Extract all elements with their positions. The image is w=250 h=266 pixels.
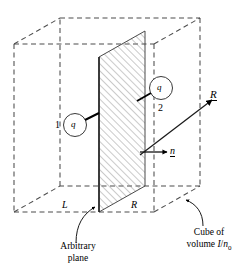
particle-1-symbol: q bbox=[71, 119, 76, 129]
particle-2-number-label: 2 bbox=[158, 102, 163, 114]
particle-1-leader bbox=[85, 113, 99, 120]
particle-1-number-label: 1 bbox=[55, 119, 60, 131]
arbitrary-plane-caption-line2: plane bbox=[36, 253, 120, 265]
arbitrary-plane-caption: Arbitrary plane bbox=[36, 241, 120, 265]
cube-edge-connect-tl bbox=[14, 18, 60, 44]
cube-volume-caption-line2: volume I/n0 bbox=[168, 239, 250, 253]
position-vector-R-label: R bbox=[210, 88, 217, 101]
position-vector-R-arrow bbox=[140, 100, 212, 155]
cube-volume-caption-line1: Cube of bbox=[168, 227, 250, 239]
particle-1-group bbox=[64, 113, 100, 137]
cube-volume-caption-prefix: volume bbox=[187, 239, 218, 249]
normal-vector-label: n bbox=[170, 145, 175, 157]
cube-volume-caption: Cube of volume I/n0 bbox=[168, 227, 250, 253]
normal-vector-label-text: n bbox=[170, 146, 175, 157]
cube-caption-leader bbox=[186, 200, 203, 226]
arbitrary-plane-caption-line1: Arbitrary bbox=[36, 241, 120, 253]
particle-2-symbol: q bbox=[157, 82, 162, 92]
cube-edge-connect-br bbox=[154, 186, 200, 212]
cube-edge-connect-tr bbox=[154, 18, 200, 44]
cube-volume-subscript: 0 bbox=[228, 244, 232, 252]
arbitrary-plane bbox=[99, 31, 145, 212]
edge-label-R: R bbox=[131, 199, 137, 211]
edge-label-L: L bbox=[62, 199, 68, 211]
cube-edge-connect-bl bbox=[14, 186, 60, 212]
figure-root: 1 q 2 q n R L R Arbitrary plane Cube of … bbox=[0, 0, 250, 266]
position-vector-R-label-text: R bbox=[210, 89, 217, 101]
arbitrary-plane-fill bbox=[99, 31, 145, 212]
